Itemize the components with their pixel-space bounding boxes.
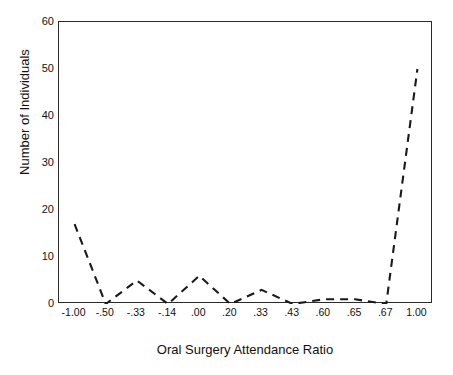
x-axis-tick-label: .00 [191,306,206,319]
data-line-svg [59,22,433,304]
x-axis-tick-label: .43 [284,306,299,319]
x-axis-tick-label: -.50 [96,306,114,319]
x-axis-tick-label: -.14 [158,306,176,319]
y-axis-tick-label: 30 [28,157,54,168]
x-axis-tick-label: -.33 [127,306,145,319]
x-axis-tick-label: 1.00 [406,306,426,319]
y-axis-tick-label: 60 [28,16,54,27]
x-axis-tick-label: -1.00 [62,306,86,319]
y-axis-tick-label: 50 [28,63,54,74]
y-axis-tick-label: 20 [28,204,54,215]
x-axis-title: Oral Surgery Attendance Ratio [58,342,432,358]
plot-area [58,21,432,303]
x-axis-tick-label: .33 [253,306,268,319]
x-axis-tick-label: .67 [378,306,393,319]
x-axis-tick-label: .20 [222,306,237,319]
x-axis-tick-labels: -1.00-.50-.33-.14.00.20.33.43.60.65.671.… [58,306,432,322]
x-axis-tick-label: .65 [347,306,362,319]
y-axis-tick-label: 10 [28,251,54,262]
y-axis-tick-label: 40 [28,110,54,121]
chart-figure: Number of Individuals 0102030405060 -1.0… [0,0,453,375]
y-axis-tick-labels: 0102030405060 [26,21,54,303]
x-axis-tick-label: .60 [316,306,331,319]
data-line-series [75,69,418,304]
y-axis-tick-label: 0 [28,298,54,309]
